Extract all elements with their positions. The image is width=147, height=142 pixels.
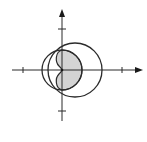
- x-axis-arrow-icon: [135, 67, 143, 73]
- polar-region-diagram: [0, 0, 147, 142]
- origin-point: [61, 69, 64, 72]
- y-axis-arrow-icon: [59, 9, 65, 17]
- diagram-canvas: [0, 0, 147, 142]
